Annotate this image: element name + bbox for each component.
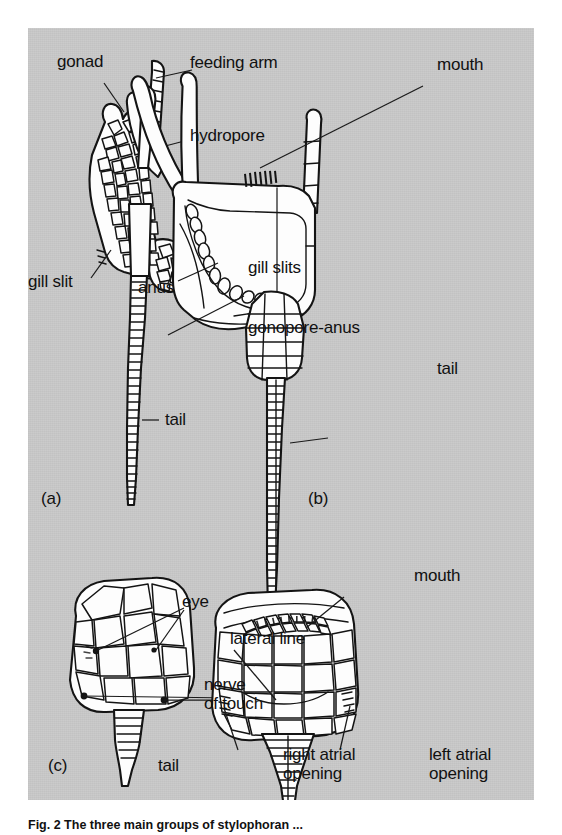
leader-mouth-b [260,86,423,168]
label-tail-c: tail [158,756,179,775]
label-tail-a: tail [165,410,186,429]
label-right-atrial-opening: right atrial opening [283,745,355,783]
panel-label-b: (b) [308,489,328,509]
figure-caption: Fig. 2 The three main groups of stylopho… [28,818,534,835]
label-lateral-line: lateral line [230,629,305,648]
label-gonopore-anus: gonopore-anus [248,318,360,337]
label-gill-slit: gill slit [28,272,73,291]
label-eye: eye [182,592,209,611]
panel-label-a: (a) [41,489,61,509]
label-nerve-of-touch: nerve of touch [204,675,263,713]
panel-label-c: (c) [48,756,67,776]
label-gonad: gonad [57,52,103,71]
label-mouth-b: mouth [437,55,483,74]
leader-tail-b [290,438,328,443]
label-gill-slits: gill slits [248,258,301,277]
label-tail-b: tail [437,359,458,378]
label-mouth-d: mouth [414,566,460,585]
panel-c-plate-mosaic [74,584,190,704]
label-hydropore: hydropore [190,126,265,145]
label-left-atrial-opening: left atrial opening [429,745,491,783]
label-anus: anus [138,278,174,297]
leader-gill-slit [91,250,111,278]
gill-slit-marks-a [97,250,106,264]
figure-artwork: .o{fill:#fdfdfd;stroke:#141414;stroke-wi… [28,28,534,800]
figure-root: .o{fill:#fdfdfd;stroke:#141414;stroke-wi… [0,0,562,835]
label-feeding-arm: feeding arm [190,53,278,72]
panel-c-organism [70,578,194,786]
